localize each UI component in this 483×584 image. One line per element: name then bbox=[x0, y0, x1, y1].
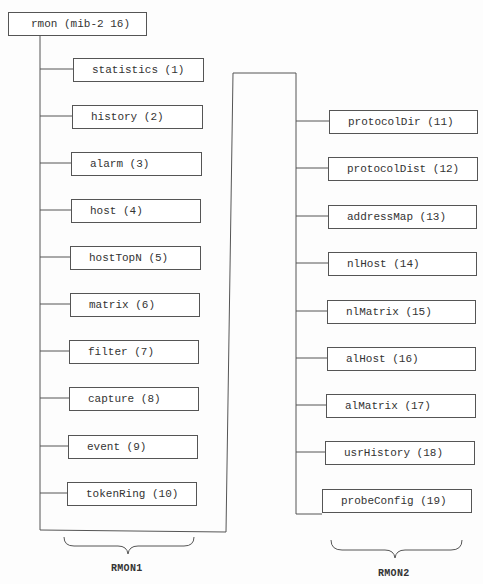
rmon2-brace-label: RMON2 bbox=[378, 568, 410, 579]
group-label: alMatrix (17) bbox=[345, 401, 431, 412]
rmon-mib-tree-diagram: rmon (mib-2 16) statistics (1) history (… bbox=[0, 0, 483, 584]
group-label: probeConfig (19) bbox=[341, 496, 447, 507]
rmon1-brace-label: RMON1 bbox=[111, 563, 143, 574]
rmon2-group-almatrix: alMatrix (17) bbox=[326, 394, 476, 418]
group-label: statistics (1) bbox=[92, 65, 184, 76]
rmon2-group-nlmatrix: nlMatrix (15) bbox=[327, 300, 476, 324]
rmon1-group-tokenring: tokenRing (10) bbox=[67, 482, 197, 506]
group-label: nlHost (14) bbox=[347, 259, 420, 270]
rmon1-group-event: event (9) bbox=[68, 435, 198, 459]
rmon2-group-addressmap: addressMap (13) bbox=[328, 205, 477, 229]
rmon2-group-nlhost: nlHost (14) bbox=[328, 252, 477, 276]
group-label: addressMap (13) bbox=[347, 212, 446, 223]
rmon2-group-protocoldist: protocolDist (12) bbox=[328, 157, 478, 181]
group-label: event (9) bbox=[87, 442, 146, 453]
rmon1-group-alarm: alarm (3) bbox=[71, 152, 202, 176]
rmon2-group-usrhistory: usrHistory (18) bbox=[325, 441, 475, 465]
group-label: filter (7) bbox=[88, 347, 154, 358]
root-node-rmon: rmon (mib-2 16) bbox=[8, 12, 147, 36]
group-label: nlMatrix (15) bbox=[346, 307, 432, 318]
group-label: alarm (3) bbox=[90, 159, 149, 170]
group-label: matrix (6) bbox=[89, 300, 155, 311]
group-label: protocolDist (12) bbox=[347, 164, 459, 175]
group-label: history (2) bbox=[91, 112, 164, 123]
group-label: alHost (16) bbox=[346, 354, 419, 365]
rmon1-group-statistics: statistics (1) bbox=[73, 58, 204, 82]
rmon1-group-history: history (2) bbox=[72, 105, 203, 129]
rmon1-group-capture: capture (8) bbox=[69, 387, 199, 411]
rmon1-group-hosttopn: hostTopN (5) bbox=[70, 246, 201, 270]
group-label: capture (8) bbox=[88, 394, 161, 405]
group-label: host (4) bbox=[90, 206, 143, 217]
group-label: hostTopN (5) bbox=[89, 253, 168, 264]
group-label: protocolDir (11) bbox=[348, 117, 454, 128]
rmon1-group-filter: filter (7) bbox=[69, 340, 199, 364]
rmon1-group-host: host (4) bbox=[71, 199, 201, 223]
rmon1-group-matrix: matrix (6) bbox=[70, 293, 200, 317]
rmon2-group-probeconfig: probeConfig (19) bbox=[322, 489, 472, 513]
group-label: usrHistory (18) bbox=[344, 448, 443, 459]
root-node-label: rmon (mib-2 16) bbox=[31, 19, 130, 30]
rmon2-group-alhost: alHost (16) bbox=[327, 347, 476, 371]
group-label: tokenRing (10) bbox=[86, 489, 178, 500]
rmon2-group-protocoldir: protocolDir (11) bbox=[329, 110, 478, 134]
